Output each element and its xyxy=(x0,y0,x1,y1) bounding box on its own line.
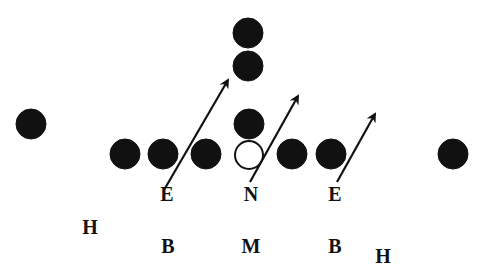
player-marker-back-2 xyxy=(233,18,263,48)
player-marker-line-5 xyxy=(277,139,307,169)
defender-label-right-half: H xyxy=(375,245,391,266)
defender-label-right-back: B xyxy=(328,235,341,257)
defender-label-left-half: H xyxy=(82,216,98,238)
defender-label-left-back: B xyxy=(161,235,174,257)
defender-label-middle: M xyxy=(242,235,261,257)
player-marker-line-1 xyxy=(110,139,140,169)
formation-diagram: ENEHBMBH xyxy=(0,0,478,266)
player-marker-quarterback xyxy=(234,109,264,139)
rush-arrows xyxy=(164,80,375,190)
defender-label-nose: N xyxy=(244,183,259,205)
arrow-icon-left-end-rush xyxy=(164,80,228,190)
player-marker-line-6 xyxy=(316,139,346,169)
defender-label-right-end: E xyxy=(328,183,341,205)
player-marker-line-2 xyxy=(148,139,178,169)
defender-label-left-end: E xyxy=(160,183,173,205)
player-marker-back-1 xyxy=(233,51,263,81)
formation-canvas: ENEHBMBH xyxy=(0,0,478,266)
defense-labels: ENEHBMBH xyxy=(82,183,391,266)
player-marker-wide-right xyxy=(438,139,468,169)
player-marker-wide-left xyxy=(16,109,46,139)
player-marker-line-3 xyxy=(191,139,221,169)
offense-players xyxy=(16,18,468,169)
